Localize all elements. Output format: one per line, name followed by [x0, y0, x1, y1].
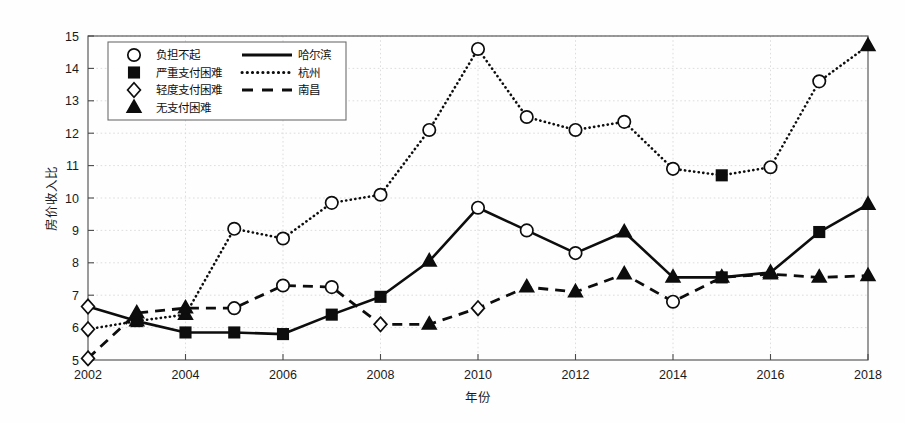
square-solid-marker	[375, 292, 385, 302]
legend-label-哈尔滨: 哈尔滨	[298, 48, 332, 62]
y-tick-label: 8	[72, 256, 79, 270]
square-solid-marker	[717, 170, 727, 180]
square-solid-marker	[278, 329, 288, 339]
x-tick-label: 2014	[659, 368, 687, 382]
circle-open-marker	[569, 247, 581, 259]
house-price-income-ratio-line-chart: 56789101112131415 2002200420062008201020…	[0, 0, 905, 423]
datapoint-杭州-2006	[277, 232, 289, 244]
y-tick-label: 6	[72, 321, 79, 335]
triangle-solid-marker	[861, 38, 875, 50]
square-solid-marker	[180, 327, 190, 337]
x-tick-label: 2002	[74, 368, 102, 382]
x-tick-label: 2008	[367, 368, 395, 382]
legend-entry-负担不起[interactable]: 负担不起	[128, 48, 201, 62]
triangle-solid-marker	[861, 268, 875, 280]
y-tick-label: 13	[65, 94, 79, 108]
diamond-open-marker	[82, 322, 95, 336]
triangle-solid-marker	[520, 280, 534, 292]
datapoint-杭州-2010	[472, 43, 484, 55]
y-tick-label: 7	[72, 289, 79, 303]
y-tick-label: 15	[65, 30, 79, 44]
y-axis-tick-labels: 56789101112131415	[65, 30, 79, 368]
chart-legend[interactable]: 负担不起严重支付困难轻度支付困难无支付困难哈尔滨杭州南昌	[108, 42, 346, 120]
diamond-open-marker	[374, 317, 387, 331]
legend-label-无支付困难: 无支付困难	[156, 101, 211, 115]
datapoint-哈尔滨-2005	[229, 327, 239, 337]
circle-open-marker	[326, 281, 338, 293]
datapoint-杭州-2011	[521, 111, 533, 123]
datapoint-哈尔滨-2007	[327, 309, 337, 319]
square-solid-marker	[129, 67, 139, 77]
y-tick-label: 12	[65, 127, 79, 141]
y-tick-label: 9	[72, 224, 79, 238]
circle-open-marker	[569, 124, 581, 136]
circle-open-marker	[374, 189, 386, 201]
datapoint-南昌-2014	[667, 295, 679, 307]
legend-label-轻度支付困难: 轻度支付困难	[156, 83, 222, 97]
circle-open-marker	[326, 197, 338, 209]
chart-canvas: 56789101112131415 2002200420062008201020…	[0, 0, 905, 423]
datapoint-杭州-2017	[813, 75, 825, 87]
legend-label-杭州: 杭州	[298, 66, 320, 80]
x-tick-label: 2010	[464, 368, 492, 382]
square-solid-marker	[814, 227, 824, 237]
datapoint-杭州-2007	[326, 197, 338, 209]
square-solid-marker	[229, 327, 239, 337]
circle-open-marker	[472, 43, 484, 55]
triangle-solid-marker	[617, 225, 631, 237]
datapoint-杭州-2013	[618, 116, 630, 128]
triangle-solid-marker	[617, 267, 631, 279]
datapoint-杭州-2014	[667, 163, 679, 175]
y-axis-title: 房价收入比	[44, 166, 59, 231]
datapoint-哈尔滨-2017	[814, 227, 824, 237]
legend-label-严重支付困难: 严重支付困难	[156, 66, 222, 80]
datapoint-哈尔滨-2006	[278, 329, 288, 339]
x-tick-label: 2004	[172, 368, 200, 382]
x-axis-tick-labels: 200220042006200820102012201420162018	[74, 368, 882, 382]
triangle-solid-marker	[861, 197, 875, 209]
datapoint-南昌-2005	[228, 302, 240, 314]
datapoint-杭州-2005	[228, 223, 240, 235]
circle-open-marker	[764, 161, 776, 173]
legend-marker-square-solid	[129, 67, 139, 77]
datapoint-南昌-2007	[326, 281, 338, 293]
circle-open-marker	[618, 116, 630, 128]
datapoint-杭州-2018	[861, 38, 875, 50]
x-axis-title: 年份	[465, 390, 491, 405]
y-tick-label: 14	[65, 62, 79, 76]
circle-open-marker	[128, 49, 140, 61]
circle-open-marker	[277, 279, 289, 291]
diamond-open-marker	[82, 299, 95, 313]
series-南昌	[82, 267, 875, 366]
circle-open-marker	[667, 163, 679, 175]
datapoint-哈尔滨-2002	[82, 299, 95, 313]
legend-label-负担不起: 负担不起	[156, 48, 201, 62]
datapoint-杭州-2009	[423, 124, 435, 136]
legend-marker-circle-open	[128, 49, 140, 61]
circle-open-marker	[667, 295, 679, 307]
square-solid-marker	[327, 309, 337, 319]
datapoint-哈尔滨-2013	[617, 225, 631, 237]
datapoint-杭州-2015	[717, 170, 727, 180]
circle-open-marker	[472, 202, 484, 214]
datapoint-杭州-2008	[374, 189, 386, 201]
y-tick-label: 5	[72, 354, 79, 368]
y-tick-label: 10	[65, 192, 79, 206]
datapoint-杭州-2016	[764, 161, 776, 173]
datapoint-南昌-2006	[277, 279, 289, 291]
circle-open-marker	[277, 232, 289, 244]
datapoint-哈尔滨-2004	[180, 327, 190, 337]
chart-page: 56789101112131415 2002200420062008201020…	[0, 0, 905, 423]
circle-open-marker	[813, 75, 825, 87]
datapoint-杭州-2002	[82, 322, 95, 336]
datapoint-杭州-2012	[569, 124, 581, 136]
circle-open-marker	[228, 302, 240, 314]
datapoint-哈尔滨-2012	[569, 247, 581, 259]
datapoint-哈尔滨-2008	[375, 292, 385, 302]
y-tick-label: 11	[66, 159, 79, 173]
circle-open-marker	[423, 124, 435, 136]
datapoint-南昌-2018	[861, 268, 875, 280]
datapoint-哈尔滨-2018	[861, 197, 875, 209]
x-tick-label: 2018	[854, 368, 882, 382]
datapoint-南昌-2011	[520, 280, 534, 292]
